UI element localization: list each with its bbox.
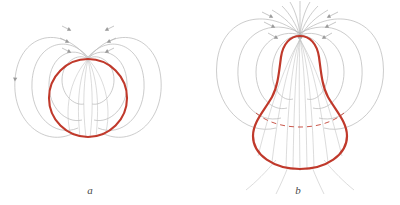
panel-a-interior-lines bbox=[68, 59, 108, 138]
drop-outline-sphere bbox=[49, 59, 127, 137]
field-loop-second-right-b-arrow bbox=[326, 22, 336, 27]
field-loop-inner-right-arrow bbox=[106, 48, 114, 52]
field-loop-third-left-b bbox=[256, 33, 300, 108]
panel-b-apex-bundle bbox=[272, 1, 328, 37]
field-loop-third-right-b-arrow bbox=[323, 33, 332, 38]
field-loop-outer-right-arrow bbox=[106, 26, 114, 30]
field-loop-third-left-b-arrow bbox=[268, 33, 277, 38]
field-loop-outer-left-arrow bbox=[62, 26, 70, 30]
panel-label-a: a bbox=[80, 184, 100, 196]
figure-canvas bbox=[0, 0, 400, 205]
panel-label-b: b bbox=[288, 184, 308, 196]
panel-b-group bbox=[217, 1, 384, 194]
figure-root: a b bbox=[0, 0, 400, 205]
field-loop-outer-left-b-arrow bbox=[262, 12, 272, 17]
field-loop-middle-right-arrow bbox=[108, 38, 116, 42]
field-loop-second-left-b-arrow bbox=[264, 22, 274, 27]
panel-a-field-lines bbox=[15, 26, 161, 138]
field-loop-middle-left-arrow bbox=[60, 38, 68, 42]
field-loop-second-right-b bbox=[300, 27, 362, 119]
field-loop-inner-left-arrow bbox=[62, 48, 70, 52]
panel-a-group bbox=[15, 26, 161, 138]
field-loop-third-right-b bbox=[300, 33, 344, 108]
panel-b-field-lines bbox=[217, 1, 384, 194]
field-loop-second-left-b bbox=[238, 27, 300, 119]
field-loop-outer-right-b-arrow bbox=[328, 12, 338, 17]
